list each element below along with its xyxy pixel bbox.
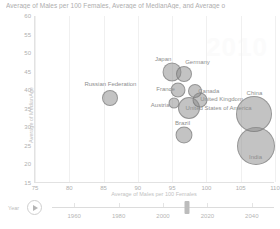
play-button[interactable] bbox=[27, 200, 42, 215]
timeline-tick-mark bbox=[207, 203, 208, 207]
data-point-label: Russian Federation bbox=[84, 81, 136, 87]
data-point-label: China bbox=[247, 90, 263, 96]
data-point-label: France bbox=[156, 86, 175, 92]
data-point-label: Germany bbox=[185, 59, 210, 65]
y-axis-tick: 20 bbox=[24, 161, 31, 167]
bubble-chart-viz: Average of Males per 100 Females, Averag… bbox=[0, 0, 280, 229]
data-bubble[interactable] bbox=[176, 66, 192, 82]
y-axis-tick: 15 bbox=[24, 180, 31, 186]
play-icon bbox=[33, 205, 38, 211]
y-axis-tick: 55 bbox=[24, 32, 31, 38]
data-bubble[interactable] bbox=[169, 98, 180, 109]
timeline-tick-label: 1980 bbox=[112, 213, 125, 219]
data-point-label: United Kingdom bbox=[200, 96, 243, 102]
x-gridline bbox=[35, 16, 36, 182]
data-point-label: United States of America bbox=[186, 105, 252, 111]
timeline-tick-mark bbox=[163, 203, 164, 207]
chart-title: Average of Males per 100 Females, Averag… bbox=[6, 2, 278, 9]
data-point-label: Canada bbox=[198, 88, 219, 94]
data-point-label: Austria bbox=[151, 102, 170, 108]
y-axis-tick: 60 bbox=[24, 13, 31, 19]
data-point-label: India bbox=[249, 154, 262, 160]
timeline-tick-mark bbox=[252, 203, 253, 207]
timeline-label: Year bbox=[8, 205, 19, 211]
y-axis-label: Average of MedianAge bbox=[28, 87, 34, 143]
plot-area: 2010 75808590951001051106055504540353025… bbox=[34, 16, 274, 183]
x-gridline bbox=[69, 16, 70, 182]
timeline-tick-label: 1960 bbox=[68, 213, 81, 219]
timeline-tick-mark bbox=[74, 203, 75, 207]
timeline-handle[interactable] bbox=[185, 201, 190, 214]
y-axis-tick: 45 bbox=[24, 69, 31, 75]
y-axis-tick: 50 bbox=[24, 50, 31, 56]
data-point-label: Brazil bbox=[175, 120, 190, 126]
data-point-label: Japan bbox=[155, 56, 171, 62]
timeline-tick-label: 2000 bbox=[156, 213, 169, 219]
year-watermark: 2010 bbox=[206, 34, 268, 60]
timeline-tick-label: 2040 bbox=[245, 213, 258, 219]
x-axis-label: Average of Males per 100 Females bbox=[34, 191, 274, 197]
timeline-track[interactable] bbox=[52, 207, 274, 208]
timeline-tick-mark bbox=[119, 203, 120, 207]
x-gridline bbox=[138, 16, 139, 182]
data-bubble[interactable] bbox=[236, 96, 272, 132]
y-axis-tick: 25 bbox=[24, 143, 31, 149]
timeline-tick-label: 2020 bbox=[201, 213, 214, 219]
x-gridline bbox=[275, 16, 276, 182]
data-bubble[interactable] bbox=[176, 126, 193, 143]
data-bubble[interactable] bbox=[102, 90, 118, 106]
